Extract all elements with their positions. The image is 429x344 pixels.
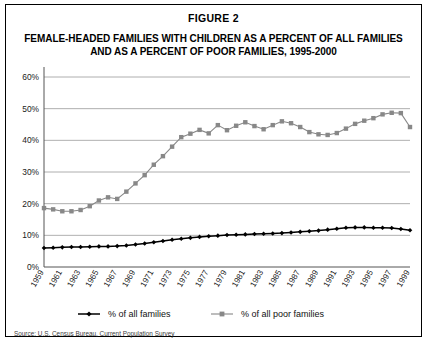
series-marker [316,132,320,136]
x-tick-label: 1991 [322,268,339,289]
x-tick-label: 1999 [395,268,412,289]
series-marker [408,125,412,129]
series-marker [42,246,47,251]
y-tick-label: 20% [22,199,39,209]
series-marker [124,243,129,248]
series-marker [389,226,394,231]
series-marker [152,240,157,245]
series-marker [133,181,137,185]
series-marker [307,229,312,234]
x-tick-label: 1967 [102,268,119,289]
series-marker [362,225,367,230]
source-note: Source: U.S. Census Bureau, Current Popu… [14,330,414,338]
x-tick-label: 1965 [84,268,101,289]
series-marker [115,244,120,249]
figure-title: FEMALE-HEADED FAMILIES WITH CHILDREN AS … [6,32,421,58]
series-marker [371,225,376,230]
series-marker [51,207,55,211]
series-marker [380,112,384,116]
series-marker [335,226,340,231]
figure-container: FIGURE 2 FEMALE-HEADED FAMILIES WITH CHI… [5,4,422,337]
chart-legend: % of all families% of all poor families [78,309,325,319]
series-marker [289,121,293,125]
series-marker [316,228,321,233]
series-marker [353,122,357,126]
series-marker [325,227,330,232]
series-marker [371,116,375,120]
series-marker [207,131,211,135]
x-tick-label: 1985 [267,268,284,289]
series-marker [280,119,284,123]
series-marker [298,125,302,129]
series-marker [380,225,385,230]
x-tick-label: 1979 [212,268,229,289]
y-tick-label: 10% [22,230,39,240]
series-marker [362,119,366,123]
series-marker [88,204,92,208]
legend-marker [86,311,91,316]
legend-marker [220,312,225,317]
x-tick-label: 1969 [120,268,137,289]
y-tick-label: 40% [22,135,39,145]
series-marker [399,111,403,115]
x-tick-label: 1995 [358,268,375,289]
series-marker [216,123,220,127]
series-marker [243,120,247,124]
series-marker [60,245,65,250]
series-marker [344,126,348,130]
figure-number: FIGURE 2 [6,12,421,24]
series-marker [161,239,166,244]
legend-label: % of all families [108,309,171,319]
y-tick-label: 30% [22,167,39,177]
y-tick-label: 60% [22,72,39,82]
chart-series-group [42,111,413,251]
series-marker [60,209,64,213]
x-tick-label: 1973 [157,268,174,289]
x-tick-label: 1981 [230,268,247,289]
chart-area: 0%10%20%30%40%50%60% 1959196119631965196… [6,61,421,336]
series-marker [252,124,256,128]
series-marker [225,128,229,132]
series-marker [225,233,230,238]
series-marker [344,225,349,230]
series-marker [243,232,248,237]
x-tick-label: 1961 [47,268,64,289]
x-tick-label: 1975 [175,268,192,289]
series-marker [206,234,211,239]
series-marker [325,133,329,137]
y-tick-label: 50% [22,104,39,114]
line-chart: 0%10%20%30%40%50%60% 1959196119631965196… [6,61,421,336]
series-marker [170,237,175,242]
series-marker [399,227,404,232]
series-marker [298,230,303,235]
series-line [44,113,410,211]
series-marker [353,225,358,230]
series-marker [78,245,83,250]
x-tick-label: 1977 [194,268,211,289]
series-marker [106,195,110,199]
series-marker [142,241,147,246]
series-marker [197,128,201,132]
x-tick-label: 1987 [285,268,302,289]
x-tick-label: 1997 [377,268,394,289]
series-marker [124,189,128,193]
series-marker [142,173,146,177]
series-marker [97,244,102,249]
legend-label: % of all poor families [241,309,325,319]
x-tick-label: 1993 [340,268,357,289]
series-marker [170,144,174,148]
series-marker [51,245,56,250]
series-marker [408,228,413,233]
chart-y-axis-labels: 0%10%20%30%40%50%60% [22,72,39,272]
series-marker [152,163,156,167]
series-marker [42,206,46,210]
series-marker [280,231,285,236]
series-marker [271,123,275,127]
x-tick-label: 1963 [65,268,82,289]
series-marker [133,242,138,247]
series-marker [234,124,238,128]
series-marker [307,130,311,134]
series-marker [261,127,265,131]
series-marker [188,131,192,135]
chart-x-axis-labels: 1959196119631965196719691971197319751977… [29,268,412,289]
